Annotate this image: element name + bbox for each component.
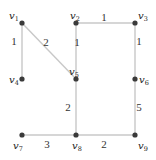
edge-weight-v8-v9: 2 bbox=[101, 138, 107, 150]
node-v4 bbox=[19, 76, 24, 81]
node-label-v2: v2 bbox=[70, 10, 80, 23]
edge-weight-v7-v8: 3 bbox=[44, 138, 50, 150]
edge-weight-v1-v4: 1 bbox=[11, 35, 17, 47]
node-v1 bbox=[19, 20, 24, 25]
node-v7 bbox=[19, 132, 24, 137]
edge-weight-v3-v6: 1 bbox=[136, 35, 142, 47]
node-v8 bbox=[73, 132, 78, 137]
node-v6 bbox=[132, 76, 137, 81]
edge-weight-v1-v5: 2 bbox=[43, 36, 49, 48]
node-label-v6: v6 bbox=[139, 74, 149, 87]
node-v3 bbox=[132, 20, 137, 25]
node-label-v9: v9 bbox=[138, 140, 148, 153]
node-label-v3: v3 bbox=[138, 10, 148, 23]
node-label-v5: v5 bbox=[69, 66, 79, 79]
graph-diagram: 121115232 v1v2v3v4v5v6v7v8v9 bbox=[0, 0, 156, 160]
node-label-v4: v4 bbox=[9, 74, 19, 87]
edge-weight-v2-v5: 1 bbox=[74, 36, 80, 48]
node-v9 bbox=[132, 132, 137, 137]
edge-v1-v5 bbox=[22, 23, 76, 79]
node-label-v8: v8 bbox=[72, 140, 82, 153]
edge-weight-v2-v3: 1 bbox=[101, 11, 107, 23]
node-label-v7: v7 bbox=[13, 140, 23, 153]
node-label-v1: v1 bbox=[9, 10, 19, 23]
edge-weight-v5-v8: 2 bbox=[65, 101, 71, 113]
edge-weight-v6-v9: 5 bbox=[136, 101, 142, 113]
